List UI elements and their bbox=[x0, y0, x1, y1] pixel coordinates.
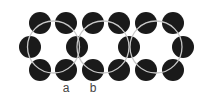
atom-circle bbox=[162, 59, 184, 81]
atom-circle bbox=[29, 12, 51, 34]
label-a: a bbox=[63, 81, 70, 95]
hexagonal-ring-diagram: a b bbox=[0, 0, 210, 97]
atom-circle bbox=[172, 36, 194, 58]
label-group: a b bbox=[63, 81, 97, 95]
label-b: b bbox=[90, 81, 97, 95]
atom-circle bbox=[19, 36, 41, 58]
atom-circle bbox=[108, 59, 130, 81]
ring-outline-group bbox=[28, 21, 183, 73]
atom-circle bbox=[82, 59, 104, 81]
atom-circle bbox=[135, 59, 157, 81]
